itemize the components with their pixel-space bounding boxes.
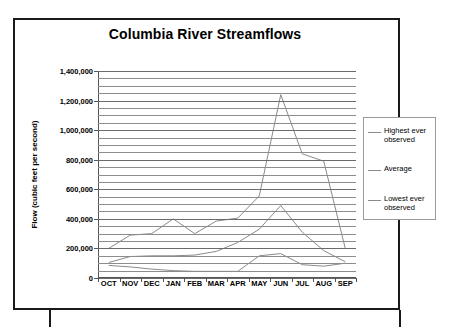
y-tick-label: 1,200,000	[60, 96, 93, 105]
legend-line-swatch-icon	[368, 129, 381, 136]
gridline	[98, 175, 356, 176]
gridline	[98, 226, 356, 227]
y-tick-label: 200,000	[66, 244, 93, 253]
gridline	[98, 167, 356, 168]
y-tick-mark	[94, 219, 98, 220]
gridline	[98, 241, 356, 242]
gridline	[98, 248, 356, 249]
x-tick-mark	[292, 278, 293, 282]
gridline	[98, 189, 356, 190]
legend-line-swatch-icon	[368, 197, 381, 204]
y-tick-label: 1,000,000	[60, 126, 93, 135]
gridline	[98, 182, 356, 183]
plot-area: 0200,000400,000600,000800,0001,000,0001,…	[98, 71, 356, 278]
page-canvas: Columbia River Streamflows Flow (cubic f…	[0, 0, 460, 327]
chart-title: Columbia River Streamflows	[20, 26, 390, 42]
gridline	[98, 211, 356, 212]
y-tick-mark	[94, 130, 98, 131]
x-tick-mark	[206, 278, 207, 282]
x-tick-label: MAY	[251, 279, 267, 288]
y-tick-mark	[94, 189, 98, 190]
y-tick-label: 0	[89, 274, 93, 283]
gridline	[98, 138, 356, 139]
gridline	[98, 86, 356, 87]
legend-label: Highest ever observed	[384, 126, 434, 144]
gridline	[98, 145, 356, 146]
x-tick-label: JUL	[295, 279, 309, 288]
y-axis-title: Flow (cubic feet per second)	[30, 95, 39, 255]
gridline	[98, 93, 356, 94]
x-tick-mark	[270, 278, 271, 282]
x-tick-label: AUG	[315, 279, 332, 288]
y-tick-label: 600,000	[66, 185, 93, 194]
x-tick-label: JUN	[273, 279, 288, 288]
x-tick-label: APR	[230, 279, 246, 288]
gridline	[98, 197, 356, 198]
page-rule-left	[49, 310, 51, 327]
gridline	[98, 160, 356, 161]
gridline	[98, 78, 356, 79]
gridline	[98, 123, 356, 124]
y-tick-label: 800,000	[66, 155, 93, 164]
gridline	[98, 204, 356, 205]
x-tick-mark	[98, 278, 99, 282]
gridline	[98, 219, 356, 220]
y-tick-label: 1,400,000	[60, 67, 93, 76]
x-tick-mark	[313, 278, 314, 282]
x-tick-label: SEP	[338, 279, 353, 288]
legend-entry[interactable]: Highest ever observed	[368, 126, 434, 144]
legend-label: Average	[384, 164, 412, 173]
x-tick-label: FEB	[187, 279, 202, 288]
x-tick-label: MAR	[208, 279, 225, 288]
gridline	[98, 101, 356, 102]
legend-entry[interactable]: Lowest ever observed	[368, 194, 434, 212]
legend-label: Lowest ever observed	[384, 194, 434, 212]
chart-legend: Highest ever observedAverageLowest ever …	[363, 117, 436, 220]
x-tick-mark	[249, 278, 250, 282]
y-tick-mark	[94, 71, 98, 72]
y-tick-label: 400,000	[66, 214, 93, 223]
x-tick-mark	[141, 278, 142, 282]
legend-line-swatch-icon	[368, 167, 381, 174]
x-tick-mark	[227, 278, 228, 282]
y-tick-mark	[94, 248, 98, 249]
x-tick-mark	[120, 278, 121, 282]
y-tick-mark	[94, 160, 98, 161]
gridline	[98, 256, 356, 257]
x-tick-label: OCT	[101, 279, 117, 288]
x-tick-label: JAN	[166, 279, 181, 288]
gridline	[98, 115, 356, 116]
gridline	[98, 152, 356, 153]
gridline	[98, 71, 356, 72]
gridline	[98, 108, 356, 109]
legend-entry[interactable]: Average	[368, 164, 434, 174]
x-tick-mark	[335, 278, 336, 282]
x-tick-mark	[356, 278, 357, 282]
y-tick-mark	[94, 101, 98, 102]
gridline	[98, 130, 356, 131]
x-tick-mark	[184, 278, 185, 282]
page-rule-right	[399, 310, 401, 327]
gridline	[98, 271, 356, 272]
gridline	[98, 263, 356, 264]
x-tick-mark	[163, 278, 164, 282]
gridline	[98, 234, 356, 235]
x-tick-label: DEC	[144, 279, 160, 288]
x-tick-label: NOV	[122, 279, 138, 288]
